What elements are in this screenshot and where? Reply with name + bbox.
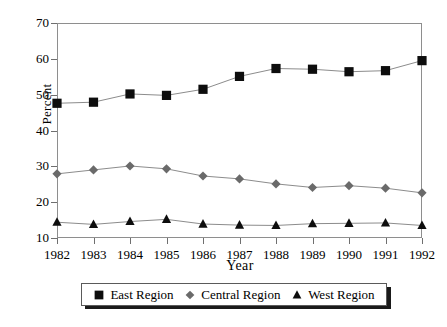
legend-item[interactable]: East Region [93,287,173,303]
data-point-marker [125,89,134,98]
series-layer [57,23,422,238]
chart-legend: East RegionCentral RegionWest Region [81,283,387,306]
y-tick-label: 60 [36,51,49,67]
data-point-marker [162,91,171,100]
x-tick-mark [57,238,58,244]
chart-figure: Percent 10203040506070 19821983198419851… [0,0,447,327]
data-point-marker [52,99,61,108]
data-point-marker [417,56,426,65]
y-tick-label: 40 [36,123,49,139]
y-tick-label: 30 [36,158,49,174]
data-point-marker [198,85,207,94]
series-line [57,61,422,104]
data-point-marker [89,165,98,174]
series-3 [52,214,426,229]
data-point-marker [162,164,171,173]
data-point-marker [52,169,61,178]
legend-item[interactable]: Central Region [184,287,280,303]
data-point-marker [344,218,353,227]
x-tick-mark [130,238,131,244]
legend-item-label: West Region [308,287,374,303]
data-point-marker [381,184,390,193]
x-tick-mark [386,238,387,244]
plot-area: 10203040506070 1982198319841985198619871… [57,23,422,238]
data-point-marker [308,65,317,74]
legend-item-label: Central Region [201,287,280,303]
data-point-marker [125,161,134,170]
data-point-marker [381,218,390,227]
diamond-marker-icon [184,289,196,301]
legend-item-label: East Region [110,287,173,303]
data-point-marker [308,183,317,192]
data-point-marker [89,98,98,107]
data-point-marker [52,217,61,226]
data-point-marker [271,220,280,229]
x-tick-mark [203,238,204,244]
data-point-marker [198,171,207,180]
y-tick-label: 70 [36,15,49,31]
data-point-marker [235,174,244,183]
x-tick-mark [422,238,423,244]
data-point-marker [308,219,317,228]
legend-shadow-bottom [85,306,391,309]
series-1 [52,56,426,108]
y-tick-label: 50 [36,87,49,103]
series-2 [52,161,426,197]
x-tick-mark [349,238,350,244]
data-point-marker [381,66,390,75]
data-point-marker [162,214,171,223]
x-tick-mark [276,238,277,244]
x-tick-mark [313,238,314,244]
square-marker-icon [93,289,105,301]
data-point-marker [125,217,134,226]
x-tick-mark [167,238,168,244]
x-tick-mark [94,238,95,244]
data-point-marker [271,179,280,188]
legend-shadow-right [387,287,391,309]
x-axis-title: Year [57,258,423,274]
data-point-marker [235,220,244,229]
data-point-marker [417,188,426,197]
data-point-marker [344,181,353,190]
y-tick-label: 20 [36,194,49,210]
data-point-marker [344,67,353,76]
data-point-marker [271,64,280,73]
triangle-marker-icon [291,289,303,301]
legend-item[interactable]: West Region [291,287,374,303]
data-point-marker [235,72,244,81]
x-tick-mark [240,238,241,244]
y-tick-label: 10 [36,230,49,246]
